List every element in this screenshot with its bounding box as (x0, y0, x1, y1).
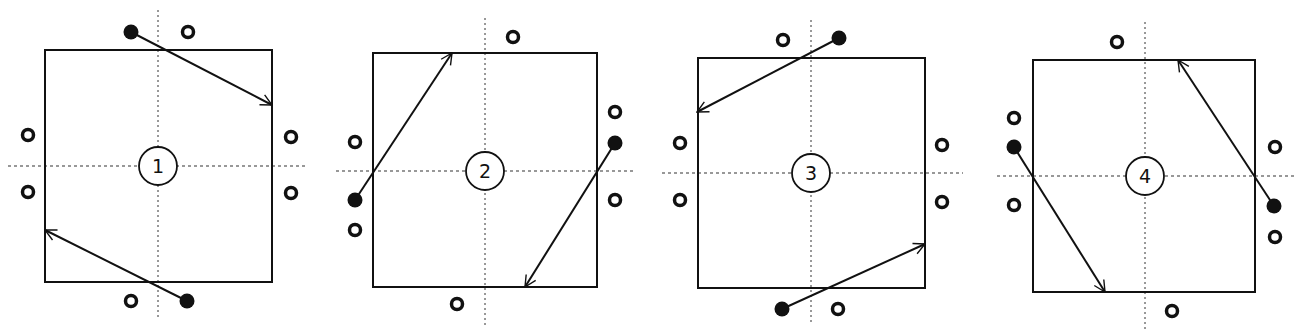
open-ring-marker (286, 188, 297, 199)
panel-3: 3 (662, 20, 963, 325)
open-ring-marker (778, 35, 789, 46)
filled-dot-marker (1267, 199, 1282, 214)
filled-dot-marker (180, 294, 195, 309)
open-ring-marker (350, 225, 361, 236)
open-ring-marker (350, 137, 361, 148)
filled-dot-marker (124, 25, 139, 40)
open-ring-marker (610, 195, 621, 206)
panel-number-label: 2 (479, 160, 491, 182)
panel-number-label: 3 (805, 162, 817, 184)
open-ring-marker (452, 299, 463, 310)
panel-2: 2 (336, 18, 635, 325)
open-ring-marker (1270, 142, 1281, 153)
panel-number-label: 4 (1139, 165, 1151, 187)
open-ring-marker (1112, 37, 1123, 48)
filled-dot-marker (348, 193, 363, 208)
open-ring-marker (1270, 232, 1281, 243)
open-ring-marker (508, 32, 519, 43)
open-ring-marker (1009, 200, 1020, 211)
open-ring-marker (937, 197, 948, 208)
panel-4: 4 (997, 22, 1295, 330)
filled-dot-marker (1007, 140, 1022, 155)
open-ring-marker (610, 107, 621, 118)
open-ring-marker (833, 304, 844, 315)
open-ring-marker (23, 187, 34, 198)
panel-number-label: 1 (152, 155, 164, 177)
open-ring-marker (183, 27, 194, 38)
direction-arrow (131, 32, 272, 105)
direction-arrow (782, 244, 925, 309)
open-ring-marker (675, 138, 686, 149)
open-ring-marker (126, 296, 137, 307)
filled-dot-marker (775, 302, 790, 317)
filled-dot-marker (832, 31, 847, 46)
direction-arrow (1014, 147, 1105, 292)
open-ring-marker (23, 130, 34, 141)
open-ring-marker (675, 195, 686, 206)
direction-arrow (45, 230, 187, 301)
filled-dot-marker (608, 136, 623, 151)
diagram-canvas: 1234 (0, 0, 1295, 335)
direction-arrow (525, 143, 615, 287)
open-ring-marker (937, 140, 948, 151)
direction-arrow (1178, 60, 1274, 206)
open-ring-marker (1167, 306, 1178, 317)
open-ring-marker (286, 132, 297, 143)
panel-1: 1 (8, 10, 308, 320)
direction-arrow (355, 53, 452, 200)
direction-arrow (697, 38, 839, 112)
open-ring-marker (1009, 113, 1020, 124)
